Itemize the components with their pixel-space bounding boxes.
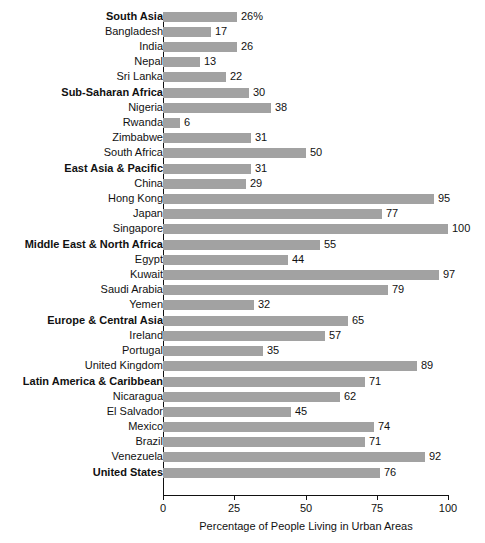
country-label: Egypt bbox=[0, 253, 163, 266]
bar-row: Ireland57 bbox=[0, 331, 485, 341]
bar-row: El Salvador45 bbox=[0, 407, 485, 417]
bar-row: Sri Lanka22 bbox=[0, 72, 485, 82]
bar-value-label: 17 bbox=[215, 25, 227, 38]
bar-track: 95 bbox=[163, 194, 448, 204]
bar-row: Saudi Arabia79 bbox=[0, 285, 485, 295]
bar-value-label: 38 bbox=[275, 101, 287, 114]
x-axis-tick bbox=[448, 495, 449, 500]
country-label: Yemen bbox=[0, 298, 163, 311]
bar-track: 31 bbox=[163, 164, 448, 174]
country-label: Saudi Arabia bbox=[0, 283, 163, 296]
bar-value-label: 31 bbox=[255, 162, 267, 175]
bar-row: Sub-Saharan Africa30 bbox=[0, 88, 485, 98]
bar-value-label: 77 bbox=[386, 207, 398, 220]
bar-value-label: 97 bbox=[443, 268, 455, 281]
bar-value-label: 44 bbox=[292, 253, 304, 266]
bar-value-label: 35 bbox=[267, 344, 279, 357]
bar-track: 55 bbox=[163, 240, 448, 250]
bar-value-label: 92 bbox=[429, 450, 441, 463]
bar-track: 17 bbox=[163, 27, 448, 37]
bar-value-label: 65 bbox=[352, 314, 364, 327]
country-label: Nepal bbox=[0, 55, 163, 68]
bar-track: 32 bbox=[163, 300, 448, 310]
country-label: Sri Lanka bbox=[0, 70, 163, 83]
plot-area: South Asia26%Bangladesh17India26Nepal13S… bbox=[0, 0, 485, 543]
bar bbox=[163, 224, 448, 234]
bar-track: 44 bbox=[163, 255, 448, 265]
bar-track: 76 bbox=[163, 468, 448, 478]
bar-track: 26% bbox=[163, 12, 448, 22]
x-axis-tick-label: 100 bbox=[428, 502, 468, 515]
bar-value-label: 55 bbox=[324, 238, 336, 251]
country-label: Bangladesh bbox=[0, 25, 163, 38]
bar-track: 79 bbox=[163, 285, 448, 295]
bar bbox=[163, 164, 251, 174]
bar-value-label: 30 bbox=[253, 86, 265, 99]
bar-row: Mexico74 bbox=[0, 422, 485, 432]
country-label: Japan bbox=[0, 207, 163, 220]
x-axis-tick bbox=[377, 495, 378, 500]
bar-row: United Kingdom89 bbox=[0, 361, 485, 371]
bar bbox=[163, 377, 365, 387]
bar-track: 30 bbox=[163, 88, 448, 98]
bar bbox=[163, 270, 439, 280]
bar-row: Venezuela92 bbox=[0, 452, 485, 462]
country-label: United Kingdom bbox=[0, 359, 163, 372]
region-label: East Asia & Pacific bbox=[0, 162, 163, 175]
bar-row: East Asia & Pacific31 bbox=[0, 164, 485, 174]
bar-track: 35 bbox=[163, 346, 448, 356]
x-axis-tick bbox=[234, 495, 235, 500]
country-label: Kuwait bbox=[0, 268, 163, 281]
bar-row: Brazil71 bbox=[0, 437, 485, 447]
bar bbox=[163, 392, 340, 402]
country-label: Hong Kong bbox=[0, 192, 163, 205]
bar-row: Zimbabwe31 bbox=[0, 133, 485, 143]
bar-value-label: 26% bbox=[241, 10, 263, 23]
bar-value-label: 29 bbox=[250, 177, 262, 190]
region-label: Middle East & North Africa bbox=[0, 238, 163, 251]
country-label: Nicaragua bbox=[0, 390, 163, 403]
bar-track: 38 bbox=[163, 103, 448, 113]
bar bbox=[163, 194, 434, 204]
bar-row: China29 bbox=[0, 179, 485, 189]
country-label: India bbox=[0, 40, 163, 53]
country-label: Brazil bbox=[0, 435, 163, 448]
bar bbox=[163, 422, 374, 432]
bar-track: 71 bbox=[163, 377, 448, 387]
bar bbox=[163, 72, 226, 82]
bar bbox=[163, 361, 417, 371]
bar-row: South Asia26% bbox=[0, 12, 485, 22]
x-axis-tick-label: 50 bbox=[286, 502, 326, 515]
country-label: El Salvador bbox=[0, 405, 163, 418]
x-axis-tick-label: 75 bbox=[357, 502, 397, 515]
bar bbox=[163, 179, 246, 189]
bar-track: 50 bbox=[163, 148, 448, 158]
bar-value-label: 76 bbox=[384, 466, 396, 479]
bar-row: Singapore100 bbox=[0, 224, 485, 234]
bar-value-label: 95 bbox=[438, 192, 450, 205]
bar-track: 31 bbox=[163, 133, 448, 143]
bar-track: 45 bbox=[163, 407, 448, 417]
bar bbox=[163, 118, 180, 128]
country-label: South Africa bbox=[0, 146, 163, 159]
bar bbox=[163, 133, 251, 143]
bar bbox=[163, 103, 271, 113]
bar-track: 26 bbox=[163, 42, 448, 52]
bar-value-label: 31 bbox=[255, 131, 267, 144]
bar bbox=[163, 88, 249, 98]
bar-track: 74 bbox=[163, 422, 448, 432]
bar-track: 92 bbox=[163, 452, 448, 462]
bar-track: 65 bbox=[163, 316, 448, 326]
bar-track: 57 bbox=[163, 331, 448, 341]
bar-value-label: 57 bbox=[329, 329, 341, 342]
bar bbox=[163, 285, 388, 295]
region-label: South Asia bbox=[0, 10, 163, 23]
bar-track: 62 bbox=[163, 392, 448, 402]
country-label: Rwanda bbox=[0, 116, 163, 129]
bar-value-label: 71 bbox=[369, 375, 381, 388]
bar-row: Nepal13 bbox=[0, 57, 485, 67]
bar bbox=[163, 346, 263, 356]
bar-row: Kuwait97 bbox=[0, 270, 485, 280]
bar bbox=[163, 240, 320, 250]
bar bbox=[163, 27, 211, 37]
